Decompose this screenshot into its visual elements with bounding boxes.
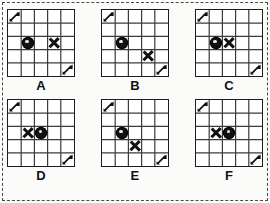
grid-b[interactable] (101, 9, 169, 77)
cell-r4c1[interactable] (8, 50, 21, 63)
cell-r4c3[interactable] (222, 140, 235, 153)
cell-r5c4[interactable] (236, 153, 249, 166)
cell-r1c5[interactable] (249, 10, 262, 23)
cell-r3c1[interactable] (8, 126, 21, 139)
cell-r2c4[interactable] (236, 113, 249, 126)
cell-r1c1[interactable] (102, 100, 115, 113)
cell-r1c4[interactable] (236, 10, 249, 23)
cell-r2c3[interactable] (34, 113, 47, 126)
cell-r4c1[interactable] (8, 140, 21, 153)
cell-r4c4[interactable] (48, 140, 61, 153)
cell-r3c5[interactable] (61, 126, 74, 139)
cell-r5c4[interactable] (48, 153, 61, 166)
cell-r3c2[interactable] (21, 36, 34, 49)
cell-r5c1[interactable] (8, 63, 21, 76)
cell-r1c1[interactable] (102, 10, 115, 23)
cell-r2c1[interactable] (102, 113, 115, 126)
cell-r4c5[interactable] (155, 140, 168, 153)
grid-a[interactable] (7, 9, 75, 77)
cell-r4c4[interactable] (236, 140, 249, 153)
cell-r5c3[interactable] (34, 153, 47, 166)
cell-r3c5[interactable] (249, 36, 262, 49)
cell-r1c2[interactable] (21, 10, 34, 23)
cell-r4c3[interactable] (222, 50, 235, 63)
cell-r2c5[interactable] (249, 113, 262, 126)
cell-r3c2[interactable] (115, 126, 128, 139)
cell-r5c2[interactable] (209, 153, 222, 166)
cell-r4c3[interactable] (34, 140, 47, 153)
cell-r1c2[interactable] (209, 100, 222, 113)
cell-r1c4[interactable] (48, 100, 61, 113)
cell-r4c2[interactable] (21, 50, 34, 63)
cell-r2c2[interactable] (115, 113, 128, 126)
cell-r4c1[interactable] (196, 140, 209, 153)
cell-r1c5[interactable] (155, 100, 168, 113)
cell-r1c3[interactable] (222, 100, 235, 113)
cell-r2c3[interactable] (34, 23, 47, 36)
cell-r3c5[interactable] (249, 126, 262, 139)
cell-r5c2[interactable] (21, 63, 34, 76)
cell-r1c2[interactable] (209, 10, 222, 23)
cell-r1c1[interactable] (8, 10, 21, 23)
cell-r2c5[interactable] (61, 23, 74, 36)
cell-r5c5[interactable] (61, 63, 74, 76)
cell-r2c2[interactable] (21, 113, 34, 126)
cell-r1c5[interactable] (61, 10, 74, 23)
cell-r4c4[interactable] (142, 140, 155, 153)
cell-r2c3[interactable] (128, 113, 141, 126)
cell-r4c2[interactable] (115, 140, 128, 153)
cell-r5c3[interactable] (222, 63, 235, 76)
cell-r1c2[interactable] (21, 100, 34, 113)
cell-r1c5[interactable] (61, 100, 74, 113)
cell-r5c1[interactable] (102, 63, 115, 76)
cell-r2c1[interactable] (196, 23, 209, 36)
grid-f[interactable] (195, 99, 263, 167)
cell-r3c3[interactable] (222, 126, 235, 139)
cell-r2c5[interactable] (155, 23, 168, 36)
cell-r2c4[interactable] (142, 23, 155, 36)
cell-r4c2[interactable] (115, 50, 128, 63)
cell-r1c5[interactable] (155, 10, 168, 23)
cell-r3c3[interactable] (128, 126, 141, 139)
cell-r4c4[interactable] (142, 50, 155, 63)
cell-r3c4[interactable] (48, 126, 61, 139)
cell-r2c5[interactable] (155, 113, 168, 126)
cell-r5c4[interactable] (142, 63, 155, 76)
cell-r3c5[interactable] (61, 36, 74, 49)
cell-r1c3[interactable] (222, 10, 235, 23)
cell-r5c1[interactable] (102, 153, 115, 166)
cell-r5c1[interactable] (196, 63, 209, 76)
cell-r4c2[interactable] (209, 140, 222, 153)
cell-r1c4[interactable] (142, 10, 155, 23)
cell-r4c4[interactable] (236, 50, 249, 63)
grid-c[interactable] (195, 9, 263, 77)
cell-r5c5[interactable] (155, 153, 168, 166)
cell-r5c5[interactable] (155, 63, 168, 76)
cell-r3c4[interactable] (236, 126, 249, 139)
cell-r2c4[interactable] (142, 113, 155, 126)
cell-r2c1[interactable] (102, 23, 115, 36)
cell-r2c1[interactable] (8, 23, 21, 36)
cell-r5c3[interactable] (34, 63, 47, 76)
cell-r2c5[interactable] (249, 23, 262, 36)
cell-r3c1[interactable] (196, 126, 209, 139)
cell-r5c2[interactable] (115, 63, 128, 76)
cell-r4c4[interactable] (48, 50, 61, 63)
cell-r2c2[interactable] (209, 23, 222, 36)
cell-r2c3[interactable] (222, 113, 235, 126)
cell-r2c3[interactable] (128, 23, 141, 36)
cell-r5c5[interactable] (249, 153, 262, 166)
cell-r4c1[interactable] (102, 140, 115, 153)
cell-r3c1[interactable] (102, 36, 115, 49)
cell-r1c1[interactable] (8, 100, 21, 113)
cell-r5c5[interactable] (249, 63, 262, 76)
cell-r3c1[interactable] (196, 36, 209, 49)
cell-r1c4[interactable] (236, 100, 249, 113)
cell-r3c3[interactable] (222, 36, 235, 49)
cell-r2c2[interactable] (115, 23, 128, 36)
cell-r3c4[interactable] (236, 36, 249, 49)
cell-r5c5[interactable] (61, 153, 74, 166)
cell-r2c2[interactable] (21, 23, 34, 36)
cell-r2c4[interactable] (48, 113, 61, 126)
cell-r3c2[interactable] (21, 126, 34, 139)
